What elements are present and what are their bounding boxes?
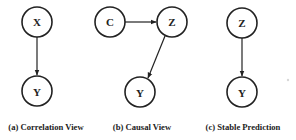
node-c: C xyxy=(95,7,125,37)
causal-diagram-figure: X Y (a) Correlation View C Z Y (b) Causa… xyxy=(0,0,296,140)
svg-text:Y: Y xyxy=(238,87,246,99)
panel-c-stable-prediction: Z Y (c) Stable Prediction xyxy=(206,8,281,132)
node-y: Y xyxy=(227,77,257,107)
panel-a-correlation-view: X Y (a) Correlation View xyxy=(8,7,84,132)
edge-z-to-y xyxy=(148,36,165,78)
caption-a: (a) Correlation View xyxy=(8,122,84,132)
node-x: X xyxy=(22,7,52,37)
node-z: Z xyxy=(157,7,187,37)
caption-c: (c) Stable Prediction xyxy=(206,122,281,132)
node-y: Y xyxy=(22,76,52,106)
svg-text:Y: Y xyxy=(33,86,41,98)
panel-b-causal-view: C Z Y (b) Causal View xyxy=(95,7,187,132)
scan-artifact xyxy=(287,79,289,81)
svg-text:Z: Z xyxy=(168,16,175,28)
node-z: Z xyxy=(227,8,257,38)
svg-text:Z: Z xyxy=(238,17,245,29)
svg-text:Y: Y xyxy=(136,87,144,99)
caption-b: (b) Causal View xyxy=(113,122,172,132)
svg-text:X: X xyxy=(33,16,41,28)
node-y: Y xyxy=(125,77,155,107)
svg-text:C: C xyxy=(106,16,114,28)
